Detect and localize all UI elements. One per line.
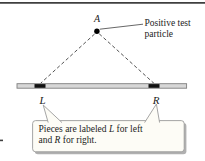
physics-figure: A Positive test particle L R Pieces are … [0, 0, 205, 161]
dashed-line-left [41, 34, 95, 83]
callout-tail-right [145, 104, 160, 123]
annotation-leader-line [100, 24, 143, 29]
callout-segment: and [39, 135, 55, 145]
annotation-line-1: Positive test [145, 18, 191, 29]
point-label-a: A [91, 13, 103, 24]
callout-text: Pieces are labeled L for left and R for … [39, 124, 143, 146]
right-piece-label: R [150, 94, 163, 106]
callout-segment: for right. [60, 135, 96, 145]
annotation-positive-test-particle: Positive test particle [145, 18, 191, 41]
left-piece [35, 84, 46, 88]
callout-line-1: Pieces are labeled L for left [39, 124, 143, 135]
callout-segment: for left [114, 124, 143, 134]
particle-dot [94, 29, 99, 34]
edge-artifact-mark [0, 140, 3, 142]
callout-tail-left [43, 105, 62, 123]
left-piece-label: L [36, 94, 49, 106]
right-piece [149, 84, 160, 88]
dashed-line-right [99, 34, 154, 84]
annotation-line-2: particle [145, 29, 191, 40]
callout-line-2: and R for right. [39, 135, 143, 146]
callout-segment: Pieces are labeled [39, 124, 109, 134]
